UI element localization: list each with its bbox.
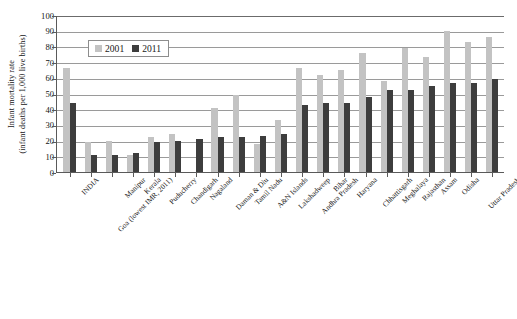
x-axis-category-labels: INDIAGoa (lowest IMR, 2011)ManipurKerala… <box>56 176 504 319</box>
bar-2011 <box>70 103 76 172</box>
bar-group <box>418 16 439 172</box>
bar-2011 <box>492 79 498 172</box>
legend-swatch-icon <box>95 45 102 52</box>
bar-2011 <box>196 139 202 172</box>
bar-group <box>440 16 461 172</box>
bar-group <box>355 16 376 172</box>
bar-2011 <box>175 141 181 172</box>
legend-item: 2001 <box>95 43 124 54</box>
bar-group <box>59 16 80 172</box>
bar-2011 <box>429 86 435 172</box>
bar-2011 <box>154 142 160 172</box>
bar-group <box>228 16 249 172</box>
y-axis-tick-label: 20 <box>34 137 54 146</box>
y-axis-title-line2: (infant deaths per 1,000 live births) <box>17 34 28 153</box>
bar-group <box>376 16 397 172</box>
bar-group <box>397 16 418 172</box>
y-axis-title-line1: Infant mortality rate <box>6 34 17 153</box>
y-axis-tick-label: 80 <box>34 43 54 52</box>
bar-2011 <box>408 90 414 172</box>
x-axis-category-label: Uttar Pradesh <box>487 176 517 211</box>
legend-item: 2011 <box>132 43 161 54</box>
bar-2011 <box>133 153 139 172</box>
bar-group <box>292 16 313 172</box>
chart-legend: 20012011 <box>88 40 169 57</box>
x-axis-category-label: Odisha <box>460 176 481 197</box>
y-axis-tick-label: 10 <box>34 153 54 162</box>
bar-2011 <box>387 90 393 172</box>
bar-group <box>482 16 503 172</box>
bar-group <box>313 16 334 172</box>
y-axis-tick-label: 100 <box>34 12 54 21</box>
legend-label: 2011 <box>142 43 161 54</box>
y-axis-tick-labels: 0102030405060708090100 <box>30 16 54 173</box>
bar-2011 <box>218 137 224 172</box>
bar-group <box>334 16 355 172</box>
bar-group <box>461 16 482 172</box>
infant-mortality-bar-chart: Infant mortality rate (infant deaths per… <box>0 0 517 319</box>
legend-swatch-icon <box>132 45 139 52</box>
bar-2011 <box>450 83 456 172</box>
bar-2011 <box>239 137 245 172</box>
bar-group <box>186 16 207 172</box>
x-axis-category-label: Haryana <box>356 176 380 200</box>
y-axis-tick-label: 50 <box>34 90 54 99</box>
bar-2011 <box>323 103 329 172</box>
bar-2011 <box>471 83 477 172</box>
legend-label: 2001 <box>105 43 124 54</box>
y-axis-tick-label: 60 <box>34 74 54 83</box>
y-axis-tick-label: 40 <box>34 106 54 115</box>
bar-2011 <box>281 134 287 172</box>
y-axis-tick-label: 30 <box>34 121 54 130</box>
bar-2011 <box>366 97 372 172</box>
bar-2011 <box>91 155 97 172</box>
x-axis-category-label: INDIA <box>80 176 101 197</box>
bar-2011 <box>344 103 350 172</box>
bar-2011 <box>260 136 266 172</box>
bar-2011 <box>112 155 118 172</box>
y-axis-tick-label: 0 <box>34 169 54 178</box>
y-axis-tick-label: 70 <box>34 59 54 68</box>
bar-group <box>249 16 270 172</box>
y-axis-tick-label: 90 <box>34 27 54 36</box>
bar-group <box>270 16 291 172</box>
bar-group <box>207 16 228 172</box>
y-axis-title: Infant mortality rate (infant deaths per… <box>0 14 34 174</box>
bar-2011 <box>302 105 308 173</box>
